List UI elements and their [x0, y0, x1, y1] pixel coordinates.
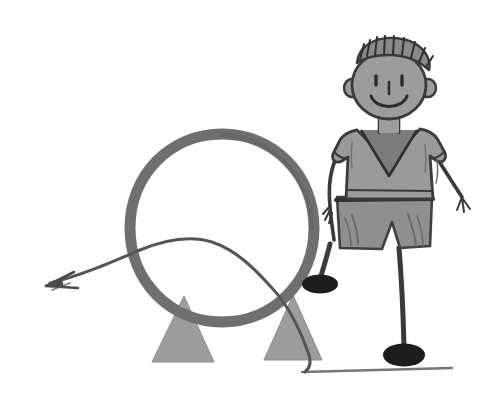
- right-shoe: [383, 344, 425, 367]
- shorts-group: [336, 197, 433, 249]
- vest-crease-left: [351, 142, 352, 168]
- hair-spike-4: [384, 36, 385, 54]
- cartoon-scene-svg: [0, 0, 498, 410]
- hair-spike-5: [393, 36, 394, 54]
- left-shoe: [302, 275, 338, 294]
- vest-group: [333, 129, 446, 199]
- vest-crease-right: [425, 145, 426, 172]
- vest-bottom-hem: [346, 190, 432, 191]
- illustration-canvas: Boy standing next to a large hoop with a…: [0, 0, 498, 410]
